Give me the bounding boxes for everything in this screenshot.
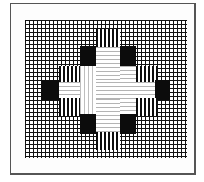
far-left-black-block: [41, 80, 59, 100]
bottom-hatch-block: [96, 132, 120, 150]
lower-right-black-block: [120, 114, 136, 134]
mid-right-hatch-upper-block: [136, 66, 157, 82]
lower-left-black-block: [80, 114, 96, 134]
far-right-black-block: [155, 80, 170, 100]
center-inner-right: [120, 66, 136, 114]
upper-left-black-block: [80, 46, 96, 66]
center-cross-horizontal: [59, 82, 155, 99]
upper-right-black-block: [120, 46, 136, 66]
mid-left-hatch-lower-block: [59, 98, 80, 116]
top-hatch-block: [96, 29, 120, 47]
mid-left-hatch-upper-block: [59, 66, 80, 82]
mid-right-hatch-lower-block: [136, 98, 157, 116]
center-inner-left: [80, 66, 96, 114]
